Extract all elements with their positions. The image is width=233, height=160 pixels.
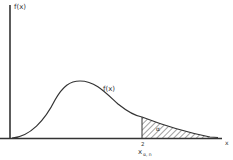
- y-axis-label: f(x): [14, 3, 26, 11]
- critical-value-subscript: α, n: [143, 152, 152, 157]
- curve-label: f(x): [103, 85, 115, 93]
- x-axis-label: x: [225, 139, 229, 146]
- chi-square-density-chart: f(x) f(x) x α 2 x α, n: [0, 0, 233, 160]
- critical-value-superscript: 2: [141, 141, 145, 147]
- critical-value-base: x: [138, 148, 142, 156]
- alpha-label: α: [156, 125, 160, 132]
